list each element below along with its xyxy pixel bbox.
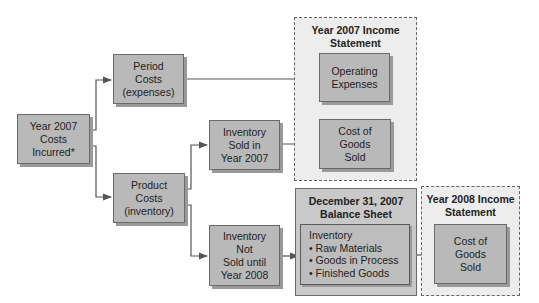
box-label: Sold in bbox=[221, 139, 269, 152]
box-label: (expenses) bbox=[123, 86, 175, 99]
title-line: Statement bbox=[295, 37, 416, 50]
box-label: (inventory) bbox=[124, 205, 174, 218]
box-label: Sold bbox=[338, 151, 371, 164]
panel-title: December 31, 2007 Balance Sheet bbox=[296, 195, 416, 221]
title-line: Year 2007 Income bbox=[295, 24, 416, 37]
box-label: Cost of bbox=[454, 235, 487, 248]
inventory-item: • Goods in Process bbox=[309, 254, 409, 267]
year-2007-costs-incurred-box: Year 2007 Costs Incurred* bbox=[17, 114, 90, 164]
box-label: Goods bbox=[454, 248, 487, 261]
operating-expenses-box: Operating Expenses bbox=[319, 53, 390, 102]
cogs-2008-box: Cost of Goods Sold bbox=[434, 224, 507, 284]
box-label: Period bbox=[123, 60, 175, 73]
box-label: Expenses bbox=[331, 78, 377, 91]
box-label: Inventory bbox=[221, 230, 269, 243]
box-label: Year 2007 bbox=[30, 120, 78, 133]
product-costs-box: Product Costs (inventory) bbox=[113, 173, 185, 223]
box-label: Sold until bbox=[221, 256, 269, 269]
period-costs-box: Period Costs (expenses) bbox=[113, 54, 184, 104]
box-label: Costs bbox=[123, 73, 175, 86]
box-label: Goods bbox=[338, 138, 371, 151]
box-label: Year 2007 bbox=[221, 152, 269, 165]
title-line: December 31, 2007 bbox=[296, 195, 416, 208]
inventory-heading: Inventory bbox=[309, 229, 409, 242]
box-label: Not bbox=[221, 243, 269, 256]
title-line: Year 2008 Income bbox=[422, 193, 519, 206]
panel-title: Year 2007 Income Statement bbox=[295, 24, 416, 50]
inventory-sold-2007-box: Inventory Sold in Year 2007 bbox=[209, 120, 280, 170]
title-line: Balance Sheet bbox=[296, 208, 416, 221]
panel-title: Year 2008 Income Statement bbox=[422, 193, 519, 219]
inventory-box: Inventory • Raw Materials • Goods in Pro… bbox=[300, 224, 410, 285]
inventory-item: • Raw Materials bbox=[309, 242, 409, 255]
box-label: Sold bbox=[454, 261, 487, 274]
inventory-not-sold-box: Inventory Not Sold until Year 2008 bbox=[209, 225, 280, 286]
box-label: Year 2008 bbox=[221, 269, 269, 282]
box-label: Costs bbox=[124, 192, 174, 205]
box-label: Product bbox=[124, 179, 174, 192]
box-label: Inventory bbox=[221, 126, 269, 139]
box-label: Operating bbox=[331, 65, 377, 78]
box-label: Costs bbox=[30, 133, 78, 146]
box-label: Cost of bbox=[338, 125, 371, 138]
inventory-item: • Finished Goods bbox=[309, 267, 409, 280]
title-line: Statement bbox=[422, 206, 519, 219]
cogs-2007-box: Cost of Goods Sold bbox=[319, 119, 391, 169]
box-label: Incurred* bbox=[30, 146, 78, 159]
